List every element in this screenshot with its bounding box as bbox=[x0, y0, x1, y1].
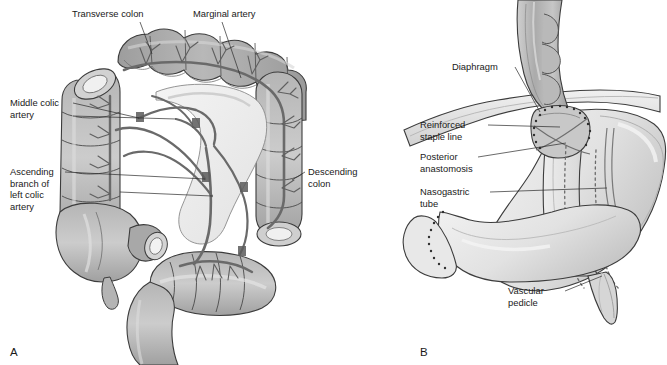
label-line: Nasogastric bbox=[420, 186, 470, 197]
label-line: Diaphragm bbox=[452, 61, 498, 72]
label-transverse-colon: Transverse colon bbox=[72, 8, 144, 19]
anastomosis-cuff-shape bbox=[531, 105, 591, 158]
label-line: anastomosis bbox=[420, 163, 473, 174]
label-line: colon bbox=[308, 178, 330, 189]
label-line: branch of bbox=[10, 178, 49, 189]
label-line: Middle colic bbox=[10, 97, 59, 108]
label-line: Ascending bbox=[10, 166, 54, 177]
label-line: artery bbox=[10, 109, 34, 120]
label-line: artery bbox=[10, 201, 34, 212]
label-line: left colic bbox=[10, 189, 44, 200]
panel-letter-a: A bbox=[10, 346, 18, 358]
illustration-svg: Transverse colonMarginal arteryMiddle co… bbox=[0, 0, 667, 365]
label-line: Transverse colon bbox=[72, 8, 144, 19]
panel-letter-b: B bbox=[420, 346, 428, 358]
label-line: Marginal artery bbox=[193, 8, 256, 19]
label-line: staple line bbox=[420, 131, 462, 142]
label-line: Vascular bbox=[508, 285, 544, 296]
label-line: Reinforced bbox=[420, 119, 465, 130]
figure-canvas: Transverse colonMarginal arteryMiddle co… bbox=[0, 0, 667, 365]
label-line: Descending bbox=[308, 166, 358, 177]
label-line: Posterior bbox=[420, 151, 458, 162]
label-line: tube bbox=[420, 198, 438, 209]
label-reinforced-staple-line: Reinforcedstaple line bbox=[420, 119, 465, 142]
label-marginal-artery: Marginal artery bbox=[193, 8, 256, 19]
label-line: pedicle bbox=[508, 297, 538, 308]
label-diaphragm: Diaphragm bbox=[452, 61, 498, 72]
